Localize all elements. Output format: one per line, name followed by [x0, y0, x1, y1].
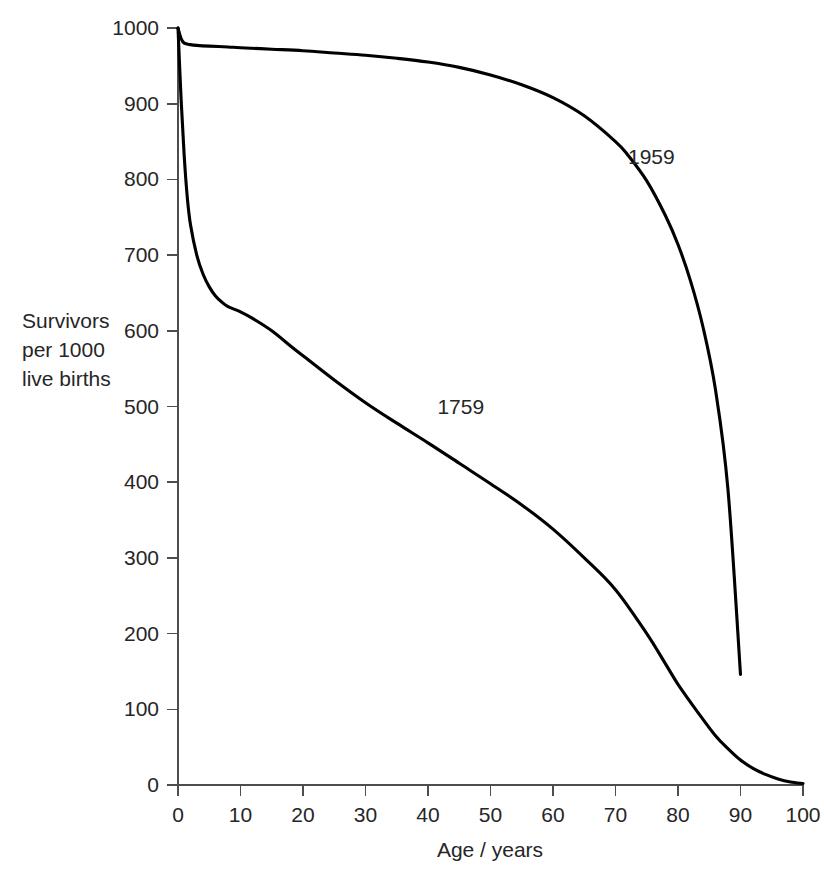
x-tick-label: 60	[541, 803, 564, 826]
y-tick-label: 100	[124, 697, 159, 720]
x-tick-label: 80	[666, 803, 689, 826]
y-axis-title-line: live births	[22, 367, 111, 390]
y-tick-label: 300	[124, 546, 159, 569]
y-tick-label: 500	[124, 395, 159, 418]
survivorship-line-chart: 01002003004005006007008009001000 0102030…	[0, 0, 824, 877]
x-tick-label: 30	[354, 803, 377, 826]
series-label-1959: 1959	[628, 145, 675, 168]
x-tick-label: 40	[416, 803, 439, 826]
y-tick-label: 200	[124, 622, 159, 645]
x-tick-label: 100	[785, 803, 820, 826]
y-tick-label: 1000	[112, 16, 159, 39]
x-tick-label: 10	[229, 803, 252, 826]
x-tick-label: 0	[172, 803, 184, 826]
y-tick-label: 800	[124, 167, 159, 190]
chart-background	[0, 0, 824, 877]
y-tick-label: 0	[147, 773, 159, 796]
y-tick-label: 600	[124, 319, 159, 342]
y-tick-label: 900	[124, 92, 159, 115]
series-label-1759: 1759	[437, 395, 484, 418]
y-axis-title: Survivorsper 1000live births	[22, 309, 111, 390]
y-tick-label: 700	[124, 243, 159, 266]
y-tick-label: 400	[124, 470, 159, 493]
x-tick-label: 70	[604, 803, 627, 826]
x-axis-title: Age / years	[437, 838, 543, 861]
chart-container: 01002003004005006007008009001000 0102030…	[0, 0, 824, 877]
x-tick-label: 20	[291, 803, 314, 826]
x-tick-label: 90	[729, 803, 752, 826]
x-tick-label: 50	[479, 803, 502, 826]
y-axis-title-line: per 1000	[22, 338, 105, 361]
y-axis-title-line: Survivors	[22, 309, 110, 332]
